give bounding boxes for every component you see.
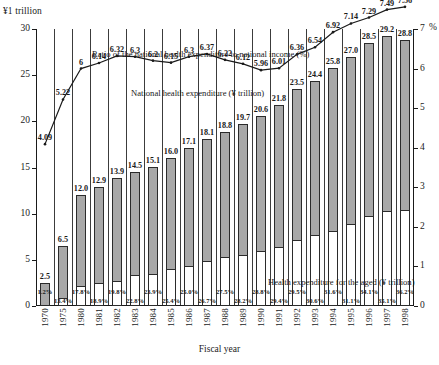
- ratio-line-path: [45, 7, 405, 144]
- x-axis-tick-label: 1994: [328, 308, 338, 327]
- ratio-line-value-label: 6: [79, 58, 83, 67]
- y-axis-right-tick-label: 2: [420, 222, 425, 232]
- ratio-line-marker: [44, 143, 47, 146]
- y-axis-left-tick: [32, 306, 36, 307]
- ratio-line-marker: [242, 63, 245, 66]
- x-axis-tick-label: 1998: [400, 308, 410, 327]
- y-axis-right-tick: [414, 29, 418, 30]
- x-axis-tick-labels: 1970197519801981198219831984198519861987…: [36, 308, 414, 342]
- y-axis-right-tick: [414, 148, 418, 149]
- x-axis-tick-label: 1982: [112, 308, 122, 327]
- ratio-line-marker: [278, 67, 281, 70]
- x-axis-tick-label: 1993: [310, 308, 320, 327]
- y-axis-right-tick-label: 6: [420, 64, 425, 74]
- y-axis-left-tick-label: 10: [21, 209, 31, 219]
- ratio-line-marker: [80, 67, 83, 70]
- ratio-line-marker: [170, 61, 173, 64]
- x-axis-tick-label: 1988: [220, 308, 230, 327]
- y-axis-right-tick: [414, 306, 418, 307]
- y-axis-left-tick-label: 20: [21, 117, 31, 127]
- x-axis-tick-label: 1997: [382, 308, 392, 327]
- ratio-line-marker: [404, 6, 407, 9]
- y-axis-left-tick-label: 0: [25, 301, 30, 311]
- x-axis-tick-label: 1980: [76, 308, 86, 327]
- ratio-line-value-label: 7.14: [344, 12, 358, 21]
- ratio-line-value-label: 7.29: [362, 7, 376, 16]
- x-axis-tick-label: 1992: [292, 308, 302, 327]
- x-axis-tick-label: 1990: [256, 308, 266, 327]
- x-axis-tick-label: 1987: [202, 308, 212, 327]
- x-axis-tick-label: 1995: [346, 308, 356, 327]
- y-axis-right-unit-label: %: [429, 22, 437, 32]
- x-axis-tick-label: 1984: [148, 308, 158, 327]
- x-axis-tick-label: 1996: [364, 308, 374, 327]
- annotation-national-health-expenditure: National health expenditure (¥ trillion): [131, 88, 264, 98]
- y-axis-right-tick-label: 0: [420, 301, 425, 311]
- ratio-line-marker: [332, 31, 335, 34]
- y-axis-left-tick-label: 15: [21, 163, 31, 173]
- ratio-line-value-label: 6.54: [308, 36, 322, 45]
- annotation-aged-health-expenditure: Health expenditure for the aged (¥ trill…: [268, 277, 415, 287]
- ratio-line-series: [36, 29, 414, 306]
- y-axis-left-tick-label: 25: [21, 70, 31, 80]
- ratio-line-marker: [350, 22, 353, 25]
- x-axis-title: Fiscal year: [0, 344, 439, 354]
- ratio-line-value-label: 5.22: [56, 88, 70, 97]
- ratio-line-marker: [260, 69, 263, 72]
- ratio-line-marker: [386, 8, 389, 11]
- y-axis-right-tick-label: 5: [420, 103, 425, 113]
- ratio-line-marker: [152, 59, 155, 62]
- x-axis-tick-label: 1970: [40, 308, 50, 327]
- ratio-line-value-label: 5.96: [254, 59, 268, 68]
- ratio-line-marker: [314, 46, 317, 49]
- x-axis-tick-label: 1985: [166, 308, 176, 327]
- x-axis-tick-label: 1989: [238, 308, 248, 327]
- y-axis-right-tick: [414, 227, 418, 228]
- ratio-line-value-label: 7.49: [380, 0, 394, 8]
- x-axis-tick-label: 1981: [94, 308, 104, 327]
- y-axis-right-tick-label: 1: [420, 262, 425, 272]
- ratio-line-value-label: 7.56: [398, 0, 412, 5]
- y-axis-left-tick-label: 30: [21, 24, 31, 34]
- ratio-line-marker: [62, 98, 65, 101]
- y-axis-right-tick: [414, 187, 418, 188]
- y-axis-right-tick-label: 3: [420, 183, 425, 193]
- y-axis-right-tick: [414, 266, 418, 267]
- x-axis-tick-label: 1986: [184, 308, 194, 327]
- x-axis-tick-label: 1975: [58, 308, 68, 327]
- ratio-line-marker: [368, 16, 371, 19]
- y-axis-right-tick: [414, 69, 418, 70]
- chart-container: ¥1 trillion % 051015202530 01234567 2.51…: [0, 0, 439, 365]
- x-axis-tick-label: 1991: [274, 308, 284, 327]
- plot-area: 051015202530 01234567 2.51.2%6.513.4%12.…: [36, 29, 414, 306]
- y-axis-right-tick-label: 7: [420, 24, 425, 34]
- annotation-ratio-line: Ratio of the national health expenditure…: [92, 49, 309, 59]
- x-axis-tick-label: 1983: [130, 308, 140, 327]
- y-axis-left-unit-label: ¥1 trillion: [3, 6, 42, 16]
- ratio-line-value-label: 4.09: [38, 133, 52, 142]
- ratio-line-value-label: 6.92: [326, 21, 340, 30]
- y-axis-right-tick-label: 4: [420, 143, 425, 153]
- ratio-line-marker: [98, 62, 101, 65]
- y-axis-left-tick-label: 5: [25, 255, 30, 265]
- y-axis-right-tick: [414, 108, 418, 109]
